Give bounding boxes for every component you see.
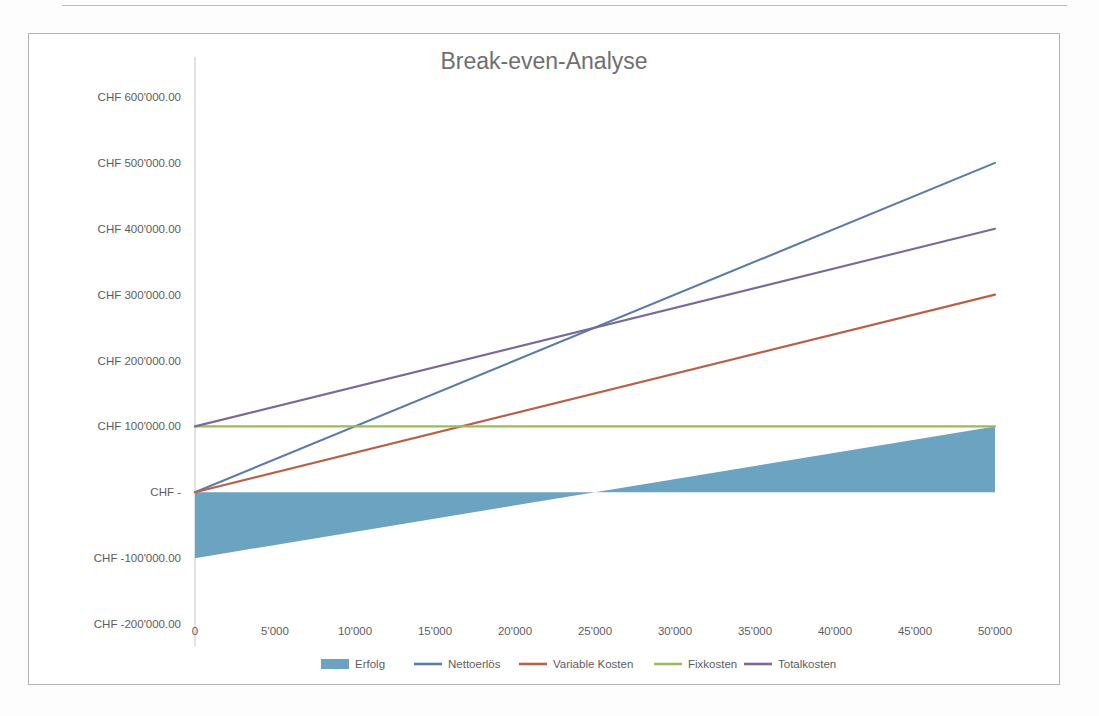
x-axis-tick-label: 25'000 [578,625,612,637]
legend-label-0[interactable]: Erfolg [355,658,385,670]
legend-label-2[interactable]: Variable Kosten [553,658,633,670]
x-axis-tick-label: 45'000 [898,625,932,637]
x-axis-tick-label: 0 [192,625,198,637]
y-axis: CHF 600'000.00CHF 500'000.00CHF 400'000.… [94,57,195,646]
series-line-totalkosten [195,229,995,427]
x-axis-tick-label: 10'000 [338,625,372,637]
x-axis-tick-label: 40'000 [818,625,852,637]
break-even-chart: Break-even-Analyse CHF 600'000.00CHF 500… [29,34,1059,684]
document-page: Break-even-Analyse CHF 600'000.00CHF 500… [0,0,1099,716]
y-axis-tick-label: CHF -100'000.00 [94,552,181,564]
series-area-erfolg [195,426,995,558]
y-axis-tick-label: CHF - [150,486,181,498]
y-axis-tick-label: CHF 400'000.00 [98,223,181,235]
x-axis-tick-label: 20'000 [498,625,532,637]
y-axis-tick-label: CHF -200'000.00 [94,618,181,630]
legend-label-4[interactable]: Totalkosten [778,658,836,670]
chart-title: Break-even-Analyse [440,48,647,74]
x-axis-tick-label: 5'000 [261,625,289,637]
x-axis-tick-label: 50'000 [978,625,1012,637]
legend-label-1[interactable]: Nettoerlös [448,658,501,670]
chart-canvas: Break-even-Analyse CHF 600'000.00CHF 500… [29,34,1059,684]
x-axis-tick-label: 30'000 [658,625,692,637]
x-axis-tick-label: 15'000 [418,625,452,637]
page-top-rule [62,5,1067,6]
plot-area [195,163,995,558]
y-axis-tick-label: CHF 100'000.00 [98,420,181,432]
x-axis-tick-label: 35'000 [738,625,772,637]
chart-frame: Break-even-Analyse CHF 600'000.00CHF 500… [28,33,1060,685]
y-axis-tick-label: CHF 200'000.00 [98,355,181,367]
y-axis-tick-label: CHF 500'000.00 [98,157,181,169]
legend-label-3[interactable]: Fixkosten [688,658,737,670]
y-axis-tick-label: CHF 300'000.00 [98,289,181,301]
legend-swatch-0 [321,659,349,669]
chart-legend: ErfolgNettoerlösVariable KostenFixkosten… [321,658,836,670]
y-axis-tick-label: CHF 600'000.00 [98,91,181,103]
x-axis: 05'00010'00015'00020'00025'00030'00035'0… [192,625,1012,637]
